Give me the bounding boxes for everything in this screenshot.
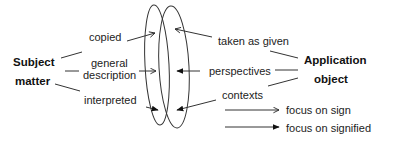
subject-label-line2: matter [15,75,50,87]
label-contexts: contexts [222,89,263,101]
arrow-taken-icon [175,29,212,37]
label-perspectives: perspectives [209,65,271,77]
legend-focus-on-sign: focus on sign [286,104,351,116]
arrow-interpreted-icon [146,107,158,110]
label-taken-as-given: taken as given [218,35,289,47]
label-general: general [91,57,128,69]
arrow-copied-icon [127,33,155,41]
label-interpreted: interpreted [84,94,137,106]
application-label-line2: object [314,73,348,85]
legend-focus-on-signified: focus on signified [286,122,371,134]
app-line-taken [270,51,298,58]
subject-line-copied [61,52,82,58]
label-description: description [83,69,136,81]
signified-ellipse [156,5,192,128]
app-line-contexts [268,78,298,86]
subject-line-interpreted [55,84,80,91]
application-label-line1: Application [304,54,367,66]
subject-label-line1: Subject [13,56,55,68]
label-copied: copied [89,31,121,43]
arrow-contexts-icon [177,100,216,110]
